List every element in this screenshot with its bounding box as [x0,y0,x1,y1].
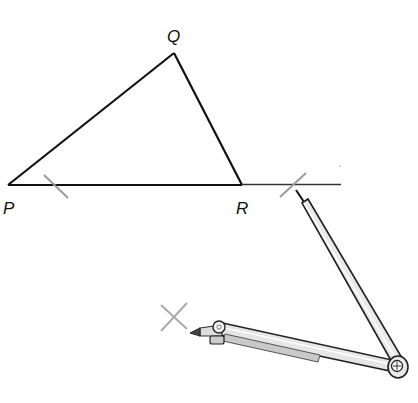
arc-mark-on-pr [44,175,68,198]
arc-mark-lower [161,303,187,331]
side-qr [174,53,242,185]
dot [339,165,341,167]
label-p: P [3,199,15,218]
construction-diagram: Q P R [0,0,418,403]
side-pq [8,53,174,185]
triangle-pqr [8,53,242,185]
label-q: Q [167,27,180,46]
compass-pencil-leg [216,322,392,371]
hinge-icon [388,356,408,378]
label-r: R [236,199,248,218]
compass-needle-leg [302,199,402,364]
compass [190,190,408,378]
